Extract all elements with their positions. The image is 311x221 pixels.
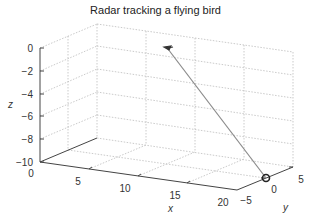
x-tick: 5: [75, 176, 81, 187]
z-tick: −8: [22, 134, 34, 145]
chart-plot-area: 0 −2 −4 −6 −8 −10 z 0 5 10 15 20 x −5 0 …: [0, 0, 311, 221]
x-tick: 0: [28, 168, 34, 179]
z-axis-label: z: [7, 99, 13, 110]
y-tick: −5: [240, 195, 252, 206]
y-tick: 0: [271, 184, 277, 195]
tracking-line: [168, 49, 266, 178]
z-tick: 0: [27, 43, 33, 54]
y-tick: 5: [298, 174, 304, 185]
z-tick: −2: [22, 66, 34, 77]
z-tick: −4: [22, 89, 34, 100]
x-tick: 15: [169, 190, 181, 201]
x-tick: 20: [217, 197, 229, 208]
x-tick: 10: [119, 183, 131, 194]
y-tick-labels: −5 0 5: [240, 174, 304, 206]
z-tick: −6: [22, 111, 34, 122]
y-axis-label: y: [282, 202, 289, 213]
x-axis-label: x: [167, 203, 174, 214]
bird-marker-icon: [164, 46, 173, 50]
floor-left-edge: [40, 138, 97, 162]
x-tick-labels: 0 5 10 15 20: [28, 168, 229, 208]
z-tick-labels: 0 −2 −4 −6 −8 −10: [16, 43, 33, 168]
z-tick: −10: [16, 157, 33, 168]
